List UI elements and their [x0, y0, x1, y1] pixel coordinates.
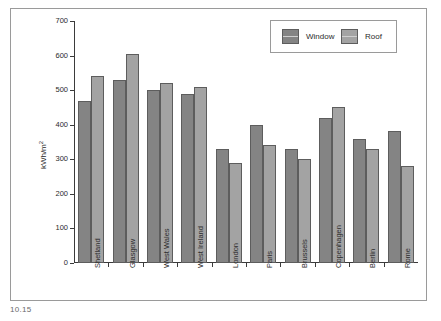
x-axis-label-west-wales: West Wales	[163, 228, 171, 268]
y-axis-tick-label: 400	[55, 121, 68, 129]
figure-caption: 10.15	[10, 305, 32, 314]
bar-window-west-wales	[147, 90, 160, 263]
bar-group	[349, 21, 383, 263]
x-axis-label-rome: Rome	[404, 248, 412, 268]
bar-group	[212, 21, 246, 263]
bar-group	[315, 21, 349, 263]
figure-10-15: kWh/m2 Window Roof 010020030040050060070…	[0, 0, 441, 321]
y-axis-tick-label: 200	[55, 190, 68, 198]
bar-group	[108, 21, 142, 263]
y-axis-tick-label: 100	[55, 225, 68, 233]
y-axis-tick-mark	[70, 263, 74, 264]
bar-window-copenhagen	[319, 118, 332, 263]
bar-roof-shetland	[91, 76, 104, 263]
y-axis-tick-label: 500	[55, 86, 68, 94]
bar-window-glasgow	[113, 80, 126, 263]
chart-frame: kWh/m2 Window Roof 010020030040050060070…	[10, 8, 427, 301]
x-axis-label-berlin: Berlin	[369, 249, 377, 268]
x-axis-tick-mark	[143, 263, 144, 267]
x-axis-label-paris: Paris	[266, 251, 274, 268]
bar-group	[74, 21, 108, 263]
y-axis-title-exponent: 2	[38, 140, 44, 143]
bar-roof-paris	[263, 145, 276, 263]
bar-window-berlin	[353, 139, 366, 263]
bar-group	[280, 21, 314, 263]
bar-roof-berlin	[366, 149, 379, 263]
plot-area: 0100200300400500600700 ShetlandGlasgowWe…	[74, 21, 418, 263]
x-axis-tick-mark	[212, 263, 213, 267]
x-axis-tick-mark	[349, 263, 350, 267]
x-axis-tick-mark	[280, 263, 281, 267]
bar-window-brussels	[285, 149, 298, 263]
y-axis-tick-label: 700	[55, 17, 68, 25]
y-axis-tick-label: 300	[55, 156, 68, 164]
bar-window-rome	[388, 131, 401, 263]
y-axis-title: kWh/m2	[38, 140, 49, 168]
x-axis-tick-mark	[108, 263, 109, 267]
bar-roof-glasgow	[126, 54, 139, 263]
x-axis-tick-mark	[246, 263, 247, 267]
x-axis-label-london: London	[232, 243, 240, 268]
bar-group	[246, 21, 280, 263]
y-axis-tick-label: 600	[55, 52, 68, 60]
bar-group	[143, 21, 177, 263]
x-axis-tick-mark	[384, 263, 385, 267]
x-axis-label-glasgow: Glasgow	[129, 239, 137, 268]
bar-group	[177, 21, 211, 263]
bar-window-paris	[250, 125, 263, 263]
bar-window-london	[216, 149, 229, 263]
bar-window-shetland	[78, 101, 91, 263]
x-axis-label-west-ireland: West Ireland	[197, 226, 205, 268]
bar-window-west-ireland	[181, 94, 194, 263]
y-axis-title-text: kWh/m	[39, 144, 48, 169]
y-axis-tick-label: 0	[64, 259, 68, 267]
bar-group	[384, 21, 418, 263]
x-axis-label-copenhagen: Copenhagen	[335, 225, 343, 268]
x-axis-tick-mark	[177, 263, 178, 267]
x-axis-label-brussels: Brussels	[301, 239, 309, 268]
x-axis-label-shetland: Shetland	[94, 238, 102, 268]
x-axis-tick-mark	[315, 263, 316, 267]
